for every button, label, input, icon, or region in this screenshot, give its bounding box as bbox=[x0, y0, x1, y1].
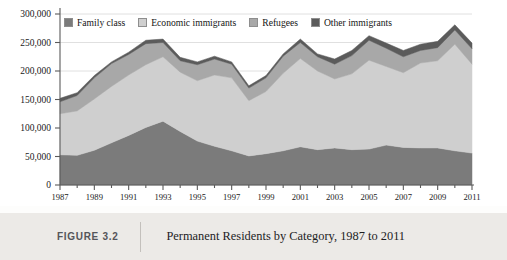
figure-caption-title: Permanent Residents by Category, 1987 to… bbox=[166, 229, 405, 244]
svg-text:200,000: 200,000 bbox=[20, 66, 51, 76]
legend-item-family-class[interactable]: Family class bbox=[64, 17, 125, 28]
area-layers bbox=[60, 25, 472, 185]
svg-text:2001: 2001 bbox=[292, 192, 309, 202]
caption-divider bbox=[140, 222, 141, 252]
svg-text:300,000: 300,000 bbox=[20, 9, 51, 19]
figure-number: FIGURE 3.2 bbox=[57, 231, 118, 242]
chart-area: 050,000100,000150,000200,000250,000300,0… bbox=[0, 0, 507, 206]
legend-swatch-icon bbox=[311, 18, 320, 27]
x-axis-tick-labels: 1987198919911993199519971999200120032005… bbox=[51, 192, 480, 202]
legend-item-label: Family class bbox=[77, 17, 125, 28]
svg-text:150,000: 150,000 bbox=[20, 95, 51, 105]
legend-swatch-icon bbox=[64, 18, 73, 27]
svg-text:1999: 1999 bbox=[257, 192, 274, 202]
svg-text:2007: 2007 bbox=[395, 192, 413, 202]
svg-text:0: 0 bbox=[46, 180, 51, 190]
svg-text:250,000: 250,000 bbox=[20, 38, 51, 48]
chart-legend: Family classEconomic immigrantsRefugeesO… bbox=[64, 17, 392, 28]
svg-text:2005: 2005 bbox=[360, 192, 377, 202]
legend-item-label: Refugees bbox=[262, 17, 298, 28]
legend-swatch-icon bbox=[138, 18, 147, 27]
stacked-area-chart: 050,000100,000150,000200,000250,000300,0… bbox=[0, 0, 507, 206]
legend-swatch-icon bbox=[249, 18, 258, 27]
svg-text:1987: 1987 bbox=[51, 192, 69, 202]
figure-caption-bar: FIGURE 3.2 Permanent Residents by Catego… bbox=[0, 213, 507, 260]
svg-text:1989: 1989 bbox=[86, 192, 103, 202]
svg-text:1995: 1995 bbox=[189, 192, 206, 202]
y-axis-tick-labels: 050,000100,000150,000200,000250,000300,0… bbox=[20, 9, 51, 190]
legend-item-label: Other immigrants bbox=[324, 17, 392, 28]
legend-item-label: Economic immigrants bbox=[151, 17, 236, 28]
svg-text:2009: 2009 bbox=[429, 192, 446, 202]
legend-item-other-immigrants[interactable]: Other immigrants bbox=[311, 17, 392, 28]
figure-container: 050,000100,000150,000200,000250,000300,0… bbox=[0, 0, 507, 260]
svg-text:1997: 1997 bbox=[223, 192, 241, 202]
svg-text:1993: 1993 bbox=[154, 192, 171, 202]
svg-text:1991: 1991 bbox=[120, 192, 137, 202]
svg-text:2011: 2011 bbox=[464, 192, 481, 202]
svg-text:2003: 2003 bbox=[326, 192, 343, 202]
legend-item-economic-immigrants[interactable]: Economic immigrants bbox=[138, 17, 236, 28]
legend-item-refugees[interactable]: Refugees bbox=[249, 17, 298, 28]
svg-text:100,000: 100,000 bbox=[20, 123, 51, 133]
svg-text:50,000: 50,000 bbox=[25, 152, 51, 162]
